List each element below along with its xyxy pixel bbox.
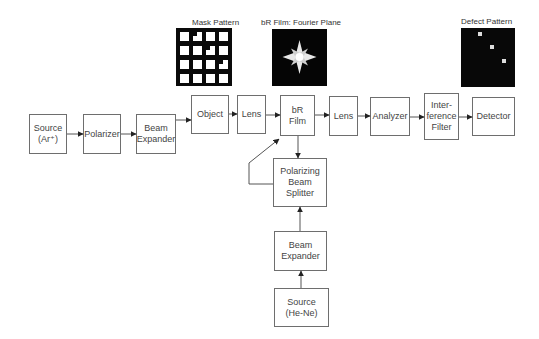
connector-arrows — [0, 0, 539, 339]
